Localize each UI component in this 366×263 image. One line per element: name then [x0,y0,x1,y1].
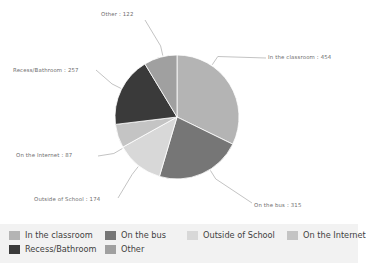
legend-swatch-on-the-internet [287,231,298,240]
legend-row-2: Recess/Bathroom Other [0,242,358,256]
leader-line-3 [98,149,122,157]
legend-item-in-the-classroom[interactable]: In the classroom [9,228,105,242]
leader-line-5 [145,20,163,56]
pie-slices-group [115,55,239,179]
pie-chart-svg [0,0,358,218]
leader-line-2 [118,167,138,198]
slice-label-outside-of-school: Outside of School : 174 [34,197,100,202]
slice-label-other: Other : 122 [101,12,134,17]
legend-label-recess-bathroom: Recess/Bathroom [25,245,96,253]
chart-legend: In the classroom On the bus Outside of S… [0,224,358,263]
legend-item-outside-of-school[interactable]: Outside of School [187,228,287,242]
legend-label-on-the-internet: On the Internet [303,231,366,239]
legend-item-other[interactable]: Other [105,242,187,256]
slice-label-in-the-classroom: In the classroom : 454 [268,55,331,60]
legend-label-in-the-classroom: In the classroom [25,231,93,239]
leader-line-1 [210,170,252,203]
legend-item-on-the-bus[interactable]: On the bus [105,228,187,242]
legend-swatch-recess-bathroom [9,245,20,254]
slice-label-on-the-bus: On the bus : 315 [254,203,302,208]
legend-item-recess-bathroom[interactable]: Recess/Bathroom [9,242,105,256]
legend-swatch-on-the-bus [105,231,116,240]
legend-label-other: Other [121,245,144,253]
legend-label-on-the-bus: On the bus [121,231,166,239]
legend-row-1: In the classroom On the bus Outside of S… [0,228,358,242]
leader-line-0 [212,57,266,65]
legend-swatch-in-the-classroom [9,231,20,240]
slice-label-recess-bathroom: Recess/Bathroom : 257 [13,68,79,73]
legend-swatch-other [105,245,116,254]
pie-chart-area: In the classroom : 454 On the bus : 315 … [0,0,358,218]
legend-label-outside-of-school: Outside of School [203,231,275,239]
leader-line-4 [96,70,121,88]
legend-swatch-outside-of-school [187,231,198,240]
slice-label-on-the-internet: On the Internet : 87 [16,153,72,158]
legend-item-on-the-internet[interactable]: On the Internet [287,228,357,242]
